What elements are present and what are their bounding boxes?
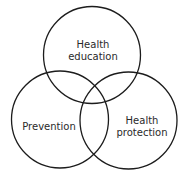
label-health-education-line2: education bbox=[68, 51, 118, 62]
label-prevention: Prevention bbox=[22, 121, 75, 132]
venn-diagram: Health education Prevention Health prote… bbox=[0, 0, 188, 181]
label-health-protection-line1: Health bbox=[126, 115, 159, 126]
label-health-education-line1: Health bbox=[77, 39, 110, 50]
label-health-protection-line2: protection bbox=[116, 127, 167, 138]
